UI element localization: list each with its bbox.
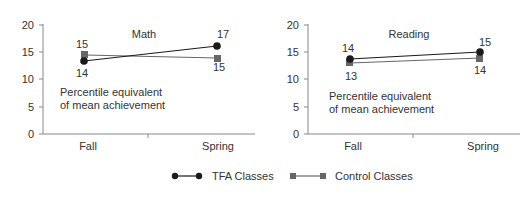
data-label: 15 [213, 61, 225, 73]
annotation-line-2: of mean achievement [329, 103, 434, 115]
chart-title: Reading [389, 28, 430, 40]
data-label: 15 [76, 38, 88, 50]
y-axis: 20 15 10 5 0 [287, 19, 308, 140]
math-chart-svg: 20 15 10 5 0 Fall Spring Math Percentile… [0, 0, 265, 160]
y-axis: 20 15 10 5 0 [22, 19, 43, 140]
y-tick-label: 10 [22, 73, 34, 85]
circle-marker [346, 55, 354, 63]
y-tick-label: 20 [287, 19, 299, 31]
x-tick-label-spring: Spring [467, 140, 499, 152]
circle-marker-icon [196, 173, 202, 179]
data-label: 15 [479, 36, 491, 48]
y-tick-label: 15 [22, 46, 34, 58]
square-marker [81, 51, 88, 58]
circle-marker [80, 57, 88, 65]
x-tick-label-spring: Spring [202, 140, 234, 152]
legend-label: Control Classes [335, 170, 413, 182]
annotation-line-2: of mean achievement [60, 99, 165, 111]
data-label: 14 [474, 64, 486, 76]
y-tick-label: 5 [28, 101, 34, 113]
legend-item-control: Control Classes [290, 170, 413, 182]
legend-svg: TFA Classes Control Classes [0, 163, 531, 187]
square-marker [476, 55, 483, 62]
circle-marker [476, 48, 484, 56]
y-tick-label: 20 [22, 19, 34, 31]
x-tick-label-fall: Fall [79, 140, 97, 152]
circle-marker-icon [172, 173, 178, 179]
y-tick-label: 10 [287, 73, 299, 85]
legend-label: TFA Classes [212, 170, 274, 182]
y-tick-label: 0 [28, 128, 34, 140]
annotation-line-1: Percentile equivalent [329, 90, 431, 102]
circle-marker [213, 42, 221, 50]
reading-chart: 20 15 10 5 0 Fall Spring Reading Percent… [265, 0, 531, 164]
reading-chart-svg: 20 15 10 5 0 Fall Spring Reading Percent… [265, 0, 531, 160]
data-label: 17 [217, 28, 229, 40]
chart-title: Math [132, 28, 156, 40]
x-tick-label-fall: Fall [344, 140, 362, 152]
annotation-line-1: Percentile equivalent [60, 86, 162, 98]
data-label: 14 [76, 67, 88, 79]
legend: TFA Classes Control Classes [0, 163, 531, 187]
y-tick-label: 0 [293, 128, 299, 140]
square-marker-icon [320, 173, 326, 179]
series-control: 13 14 [345, 55, 486, 82]
series-control: 15 15 [76, 38, 225, 73]
data-label: 13 [345, 70, 357, 82]
x-axis: Fall Spring [43, 134, 255, 152]
y-tick-label: 5 [293, 101, 299, 113]
math-chart: 20 15 10 5 0 Fall Spring Math Percentile… [0, 0, 265, 164]
data-label: 14 [342, 42, 354, 54]
square-marker-icon [290, 173, 296, 179]
legend-item-tfa: TFA Classes [172, 170, 274, 182]
y-tick-label: 15 [287, 46, 299, 58]
x-axis: Fall Spring [308, 134, 520, 152]
